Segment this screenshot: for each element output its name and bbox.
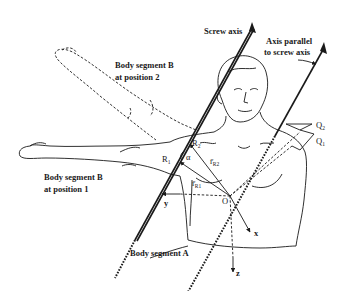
screw-axis-label: Screw axis — [204, 26, 243, 36]
origin-label: O — [222, 196, 228, 206]
point-q1-label: Q1 — [316, 136, 325, 147]
point-r2-label: R2 — [192, 138, 201, 149]
body-segment-b-position-1-figure — [19, 142, 180, 176]
y-axis-label: y — [164, 198, 169, 208]
vector-r-r2-label: r̄R2 — [210, 156, 220, 167]
parallel-axis-label-line1: Axis parallel — [266, 36, 313, 46]
parallel-axis-label-line2: to screw axis — [264, 47, 311, 57]
segment-b-position-2-label-line2: at position 2 — [115, 72, 159, 82]
body-segment-a-figure — [170, 56, 307, 248]
screw-axis-diagram: Screw axis Axis parallel to screw axis B… — [0, 0, 345, 291]
segment-b-position-1-label-line1: Body segment B — [44, 172, 103, 182]
segment-b-position-2-label-line1: Body segment B — [115, 60, 174, 70]
x-axis-label: x — [254, 228, 259, 238]
alpha-angle-label: α — [186, 152, 191, 162]
vector-r-r1-label: r̄R1 — [192, 178, 202, 189]
segment-b-position-1-label-line2: at position 1 — [44, 184, 88, 194]
point-q2-label: Q2 — [316, 120, 325, 131]
segment-a-label: Body segment A — [130, 248, 189, 258]
point-r1-label: R1 — [162, 154, 171, 165]
z-axis-label: z — [236, 268, 240, 278]
